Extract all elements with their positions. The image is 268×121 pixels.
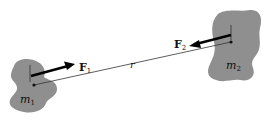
separation-label: r (130, 59, 136, 70)
force-1-label: F1 (79, 61, 91, 75)
force-2-label: F2 (174, 38, 186, 52)
diagram-canvas: F1 F2 r m1 m2 (0, 0, 268, 121)
mass-2-center-dot (229, 40, 232, 43)
mass-1-center-dot (32, 83, 35, 86)
gravitation-diagram: F1 F2 r m1 m2 (0, 0, 268, 121)
